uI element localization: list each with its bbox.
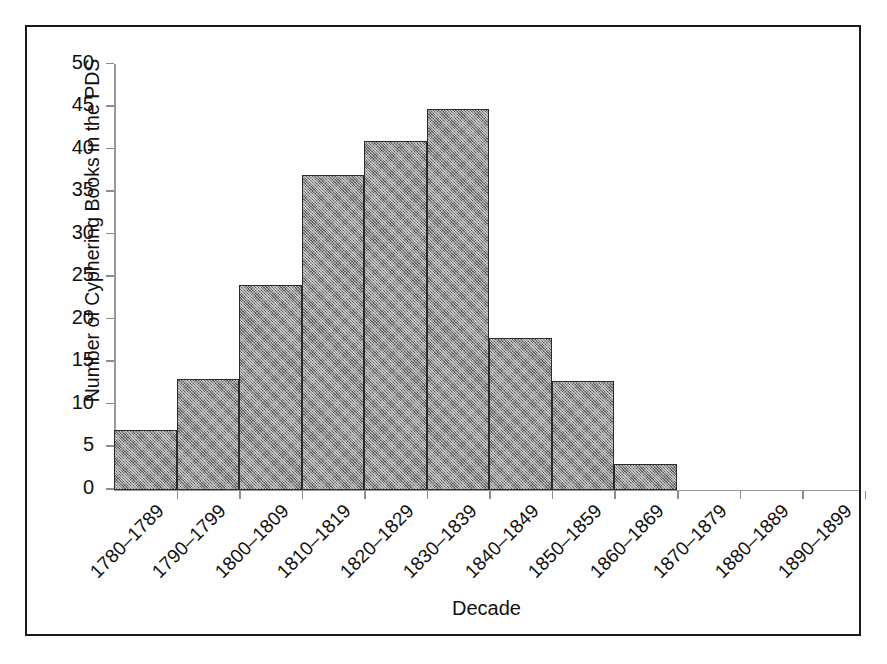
bar[interactable]: [614, 464, 677, 490]
x-axis-tick: [802, 491, 804, 499]
bar[interactable]: [427, 109, 490, 489]
y-axis-tick: 5: [106, 445, 114, 447]
y-axis-tick-label: 5: [83, 433, 94, 456]
bar[interactable]: [177, 379, 240, 490]
y-axis-tick-label: 0: [83, 476, 94, 499]
x-axis-tick: [614, 491, 616, 499]
x-axis-tick: [239, 491, 241, 499]
y-axis-tick: 50: [106, 63, 114, 65]
x-axis-tick: [427, 491, 429, 499]
x-axis-tick: [177, 491, 179, 499]
x-axis-line: [114, 490, 859, 492]
x-axis-tick: [740, 491, 742, 499]
x-axis-tick: [865, 491, 867, 499]
bar[interactable]: [239, 285, 302, 489]
y-axis-tick: 20: [106, 318, 114, 320]
x-axis-title: Decade: [114, 597, 859, 620]
x-axis-tick: [552, 491, 554, 499]
bar[interactable]: [489, 338, 552, 489]
y-axis-tick: 15: [106, 360, 114, 362]
y-axis-tick: 30: [106, 233, 114, 235]
y-axis-tick: 45: [106, 105, 114, 107]
x-axis-tick: [302, 491, 304, 499]
y-axis-tick-label: 10: [72, 391, 94, 414]
y-axis-tick-label: 25: [72, 263, 94, 286]
y-axis-tick-label: 20: [72, 306, 94, 329]
y-axis-tick-label: 50: [72, 51, 94, 74]
bar[interactable]: [552, 381, 615, 489]
y-axis-tick: 40: [106, 148, 114, 150]
y-axis-tick: 35: [106, 190, 114, 192]
bar[interactable]: [114, 430, 177, 490]
plot-area: 05101520253035404550 1780–17891790–17991…: [114, 39, 859, 491]
y-axis-tick-label: 40: [72, 136, 94, 159]
bar[interactable]: [302, 175, 365, 490]
y-axis-tick: 25: [106, 275, 114, 277]
y-axis-tick-label: 45: [72, 93, 94, 116]
figure-frame: Number of Cyphering Books in the PDS 051…: [25, 25, 861, 636]
bar[interactable]: [364, 141, 427, 490]
y-axis-tick-label: 35: [72, 178, 94, 201]
y-axis-line: [114, 64, 116, 491]
x-axis-tick: [364, 491, 366, 499]
y-axis-tick-label: 30: [72, 221, 94, 244]
x-axis-tick: [677, 491, 679, 499]
y-axis-tick: 10: [106, 403, 114, 405]
y-axis-tick-label: 15: [72, 348, 94, 371]
x-axis-tick: [489, 491, 491, 499]
y-axis-tick: 0: [106, 488, 114, 490]
